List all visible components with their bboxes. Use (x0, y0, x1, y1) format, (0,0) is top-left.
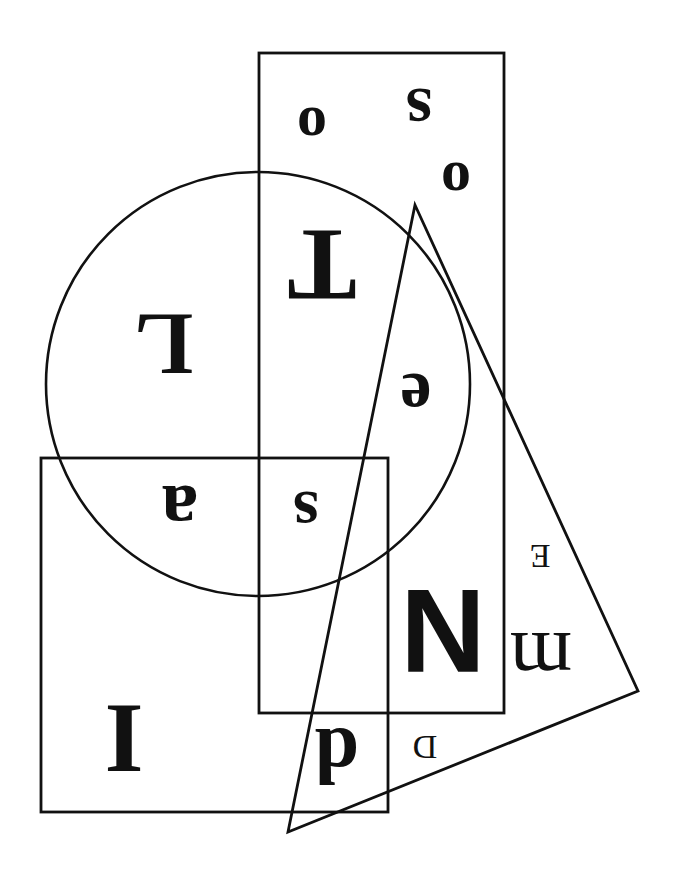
letter-s-upper-right: s (406, 78, 432, 146)
letter-d-bottom: d (315, 716, 360, 796)
letter-e-small-right: E (530, 539, 551, 573)
letter-l-left: L (135, 300, 194, 388)
letter-i-bottom-left: I (105, 689, 144, 789)
figure-canvas: osoTLeasENmIdD (0, 0, 678, 885)
letter-o-upper-left: o (297, 98, 327, 158)
letter-d-small-bottom: D (413, 730, 438, 764)
letter-o-right: o (441, 153, 471, 213)
letter-e-center-right: e (400, 362, 431, 432)
letter-s-middle: s (293, 481, 319, 547)
letter-a-left: a (162, 474, 199, 548)
letter-n-large: N (400, 572, 485, 690)
letter-t-center: T (287, 213, 356, 317)
letter-m-right: m (510, 620, 572, 700)
